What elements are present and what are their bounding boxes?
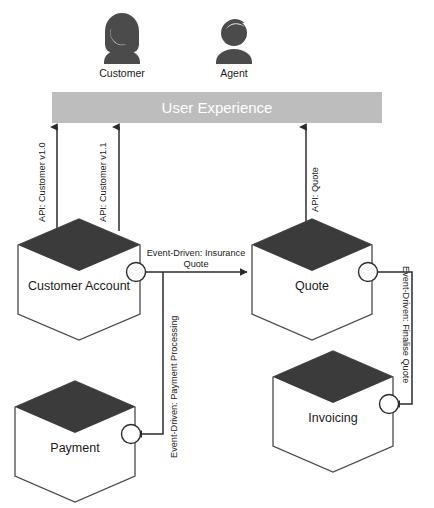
person-male-icon [216,19,252,64]
node-payment[interactable]: Payment [15,381,141,502]
actor-customer: Customer [99,13,145,79]
actor-label-customer: Customer [99,67,145,79]
edge-api-customer-v10: API: Customer v1.0 [37,127,57,231]
edge-label-api-customer-v10: API: Customer v1.0 [37,142,47,222]
port-customer-account-right[interactable] [127,263,146,282]
user-experience-layer: User Experience [52,92,382,123]
edge-api-customer-v11: API: Customer v1.1 [98,127,119,231]
edge-event-payment-processing: Event-Driven: Payment Processing [135,272,179,458]
node-quote[interactable]: Quote [252,219,378,340]
edge-event-insurance-quote: Event-Driven: Insurance Quote [144,248,247,272]
architecture-diagram: Customer Agent User Experience API: Cus [0,0,434,508]
port-quote-right[interactable] [359,263,378,282]
actor-agent: Agent [216,19,252,79]
edge-label-api-customer-v11: API: Customer v1.1 [98,142,108,222]
user-experience-label: User Experience [162,99,273,116]
person-female-icon [104,13,140,64]
node-label-payment: Payment [50,441,100,455]
edge-label-payment-processing: Event-Driven: Payment Processing [169,316,179,458]
actor-label-agent: Agent [220,67,248,79]
port-payment-right[interactable] [122,425,141,444]
node-label-invoicing: Invoicing [308,411,357,425]
node-label-quote: Quote [295,279,329,293]
edge-label-finalise-quote: Event-Driven: Finalise Quote [401,266,411,383]
edge-label-insurance-quote-line2: Quote [183,259,208,269]
edge-label-insurance-quote-line1: Event-Driven: Insurance [147,248,246,258]
node-label-customer-account: Customer Account [28,279,131,293]
node-invoicing[interactable]: Invoicing [273,351,399,472]
port-invoicing-right[interactable] [380,395,399,414]
diagram-canvas: Customer Agent User Experience API: Cus [0,0,434,508]
edge-label-api-quote: API: Quote [310,167,320,212]
node-customer-account[interactable]: Customer Account [18,219,146,340]
